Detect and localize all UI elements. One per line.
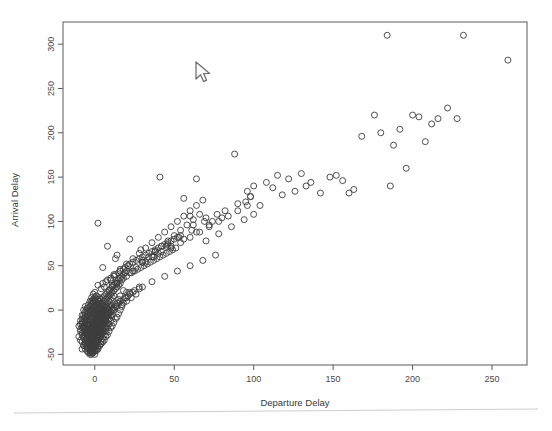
- plot-frame-layer: [63, 22, 527, 365]
- data-point: [209, 218, 215, 224]
- data-point: [187, 234, 193, 240]
- data-point: [340, 178, 346, 184]
- data-point: [184, 222, 190, 228]
- data-point: [308, 179, 314, 185]
- data-point: [257, 202, 263, 208]
- x-tick-label: 150: [326, 374, 341, 384]
- data-point: [235, 201, 241, 207]
- x-tick-label: 50: [169, 374, 179, 384]
- data-point: [241, 217, 247, 223]
- data-point: [213, 252, 219, 258]
- data-point: [112, 256, 118, 262]
- data-point: [445, 105, 451, 111]
- data-point: [391, 142, 397, 148]
- data-point: [197, 211, 203, 217]
- data-point: [174, 268, 180, 274]
- data-point: [100, 265, 106, 271]
- x-tick-label: 250: [485, 374, 500, 384]
- footer-divider: [14, 409, 538, 413]
- data-point: [214, 211, 220, 217]
- y-tick-label: 250: [46, 81, 56, 96]
- data-point: [149, 279, 155, 285]
- data-point: [378, 130, 384, 136]
- data-point: [275, 172, 281, 178]
- data-point: [270, 185, 276, 191]
- data-point: [505, 57, 511, 63]
- data-points-layer: [76, 32, 511, 357]
- data-point: [114, 252, 120, 258]
- data-point: [454, 116, 460, 122]
- data-point: [216, 231, 222, 237]
- data-point: [200, 257, 206, 263]
- data-point: [235, 208, 241, 214]
- y-tick-label: -50: [46, 348, 56, 361]
- data-point: [292, 188, 298, 194]
- data-point: [228, 224, 234, 230]
- data-point: [200, 197, 206, 203]
- data-point: [201, 218, 207, 224]
- data-point: [435, 116, 441, 122]
- data-point: [216, 218, 222, 224]
- data-point: [203, 238, 209, 244]
- data-point: [243, 199, 249, 205]
- x-tick-label: 200: [405, 374, 420, 384]
- x-tick-label: 0: [92, 374, 97, 384]
- data-point: [327, 174, 333, 180]
- data-point: [95, 220, 101, 226]
- data-point: [359, 133, 365, 139]
- y-tick-label: 100: [46, 214, 56, 229]
- y-axis-title: Arrival Delay: [9, 173, 20, 227]
- data-point: [384, 32, 390, 38]
- plot-frame: [63, 22, 527, 365]
- data-point: [397, 126, 403, 132]
- data-point: [251, 211, 257, 217]
- data-point: [174, 218, 180, 224]
- data-point: [422, 139, 428, 145]
- data-point: [162, 273, 168, 279]
- data-point: [403, 165, 409, 171]
- data-point: [193, 176, 199, 182]
- data-point: [333, 172, 339, 178]
- y-tick-label: 150: [46, 170, 56, 185]
- data-point: [127, 236, 133, 242]
- axis-tick-labels-layer: 050100150200250-50050100150200250300: [46, 37, 500, 384]
- x-tick-label: 100: [246, 374, 261, 384]
- data-point: [203, 215, 209, 221]
- data-point: [416, 114, 422, 120]
- plot-window: 050100150200250-50050100150200250300 Dep…: [0, 0, 552, 431]
- axis-ticks-layer: [58, 44, 492, 370]
- data-point: [244, 202, 250, 208]
- data-point: [351, 187, 357, 193]
- y-tick-label: 200: [46, 125, 56, 140]
- data-point: [149, 240, 155, 246]
- data-point: [317, 190, 323, 196]
- data-point: [181, 195, 187, 201]
- data-point: [263, 179, 269, 185]
- data-point: [387, 183, 393, 189]
- y-tick-label: 300: [46, 37, 56, 52]
- data-point: [157, 174, 163, 180]
- data-point: [410, 112, 416, 118]
- data-point: [222, 208, 228, 214]
- data-point: [155, 234, 161, 240]
- data-point: [371, 112, 377, 118]
- data-point: [104, 243, 110, 249]
- x-axis-title: Departure Delay: [260, 397, 329, 408]
- data-point: [168, 224, 174, 230]
- data-point: [193, 202, 199, 208]
- data-point: [460, 32, 466, 38]
- scatter-plot-canvas[interactable]: 050100150200250-50050100150200250300 Dep…: [0, 0, 552, 431]
- data-point: [251, 183, 257, 189]
- data-point: [232, 151, 238, 157]
- data-point: [286, 176, 292, 182]
- data-point: [162, 229, 168, 235]
- data-point: [181, 213, 187, 219]
- data-point: [429, 121, 435, 127]
- y-tick-label: 0: [46, 308, 56, 313]
- data-point: [279, 192, 285, 198]
- y-tick-label: 50: [46, 261, 56, 271]
- data-point: [248, 194, 254, 200]
- data-point: [187, 263, 193, 269]
- data-point: [298, 171, 304, 177]
